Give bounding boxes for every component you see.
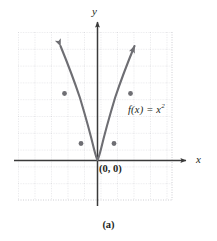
grid-lines [18,32,172,200]
y-axis-label: y [92,6,97,17]
x-axis-label: x [196,154,201,165]
origin-label: (0, 0) [99,164,122,175]
function-label-base: f(x) = x [128,104,161,115]
figure-caption: (a) [0,219,217,230]
function-label: f(x) = x2 [128,103,165,115]
parabola-figure: y x f(x) = x2 (0, 0) (a) [0,0,217,241]
function-label-exponent: 2 [161,102,165,110]
plot-canvas [0,0,217,241]
